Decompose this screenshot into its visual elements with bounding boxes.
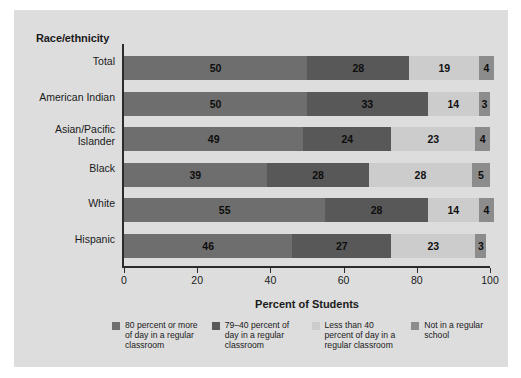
bar-segment: 4 (475, 127, 490, 151)
bar-row: Hispanic4627233 (124, 234, 490, 258)
bar-segment: 23 (391, 127, 475, 151)
bar-segment-value: 55 (124, 198, 325, 222)
bar-segment: 50 (124, 56, 307, 80)
bar-segment: 50 (124, 92, 307, 116)
bar-segment-value: 28 (267, 163, 369, 187)
category-label: White (0, 198, 115, 210)
legend-item[interactable]: 80 percent or more of day in a regular c… (112, 320, 203, 351)
stacked-bar: 4627233 (124, 234, 490, 258)
legend-swatch-not-regular-school (411, 322, 419, 330)
bar-row: White5528144 (124, 198, 490, 222)
x-axis-tick-label: 60 (338, 274, 350, 286)
bar-segment: 28 (307, 56, 409, 80)
x-axis-tick-label: 100 (481, 274, 499, 286)
bar-segment-value: 4 (475, 127, 490, 151)
x-axis-line (122, 266, 490, 268)
legend-item-label: Less than 40 percent of day in a regular… (325, 320, 403, 351)
x-axis-tick-mark (490, 268, 491, 273)
category-label: Black (0, 163, 115, 175)
category-label: Hispanic (0, 234, 115, 246)
legend-swatch-79-40 (212, 322, 220, 330)
bar-segment: 49 (124, 127, 303, 151)
x-axis-tick-mark (124, 268, 125, 273)
bar-segment-value: 3 (479, 92, 490, 116)
bar-segment: 19 (409, 56, 479, 80)
category-label: Total (0, 56, 115, 68)
bar-segment: 39 (124, 163, 267, 187)
bar-segment-value: 49 (124, 127, 303, 151)
stacked-bar: 5528144 (124, 198, 490, 222)
bar-segment-value: 39 (124, 163, 267, 187)
bar-segment-value: 3 (475, 234, 486, 258)
plot-area: Total5028194American Indian5033143Asian/… (124, 48, 490, 266)
bar-segment: 14 (428, 198, 479, 222)
x-axis-tick-mark (270, 268, 271, 273)
y-axis-header: Race/ethnicity (36, 32, 140, 44)
bar-segment-value: 50 (124, 92, 307, 116)
bar-segment: 3 (479, 92, 490, 116)
legend-item[interactable]: Not in a regular school (411, 320, 502, 340)
bar-segment: 27 (292, 234, 391, 258)
bar-segment-value: 24 (303, 127, 391, 151)
x-axis-tick-label: 40 (265, 274, 277, 286)
x-axis-tick-label: 0 (121, 274, 127, 286)
bar-row: Total5028194 (124, 56, 490, 80)
stacked-bar: 4924234 (124, 127, 490, 151)
bar-segment: 28 (369, 163, 471, 187)
stacked-bar: 5033143 (124, 92, 490, 116)
bar-segment-value: 5 (472, 163, 490, 187)
bar-row: Black3928285 (124, 163, 490, 187)
x-axis-title: Percent of Students (124, 298, 490, 310)
bar-segment: 55 (124, 198, 325, 222)
bar-segment: 24 (303, 127, 391, 151)
x-axis-tick-mark (197, 268, 198, 273)
bar-segment-value: 14 (428, 198, 479, 222)
bar-segment: 46 (124, 234, 292, 258)
bar-segment-value: 14 (428, 92, 479, 116)
bar-segment: 28 (267, 163, 369, 187)
legend-item-label: Not in a regular school (424, 320, 502, 340)
bar-segment-value: 23 (391, 127, 475, 151)
chart-figure-panel: Race/ethnicity Total5028194American Indi… (14, 10, 508, 367)
legend-swatch-80-or-more (112, 322, 120, 330)
bar-segment-value: 4 (479, 56, 494, 80)
bar-segment: 3 (475, 234, 486, 258)
bar-segment-value: 28 (307, 56, 409, 80)
bar-row: Asian/Pacific Islander4924234 (124, 127, 490, 151)
bar-segment: 5 (472, 163, 490, 187)
x-axis-tick-label: 80 (411, 274, 423, 286)
bar-segment: 14 (428, 92, 479, 116)
bar-segment-value: 23 (391, 234, 475, 258)
bar-segment: 33 (307, 92, 428, 116)
stacked-bar: 3928285 (124, 163, 490, 187)
x-axis-tick-label: 20 (191, 274, 203, 286)
bar-segment: 28 (325, 198, 427, 222)
bar-segment-value: 28 (369, 163, 471, 187)
chart-legend: 80 percent or more of day in a regular c… (112, 320, 502, 351)
legend-item-label: 79–40 percent of day in a regular classr… (225, 320, 303, 351)
x-axis-tick-mark (344, 268, 345, 273)
legend-swatch-less-than-40 (312, 322, 320, 330)
legend-item[interactable]: Less than 40 percent of day in a regular… (312, 320, 403, 351)
bar-segment-value: 27 (292, 234, 391, 258)
legend-item-label: 80 percent or more of day in a regular c… (125, 320, 203, 351)
category-label: American Indian (0, 92, 115, 104)
bar-segment: 4 (479, 56, 494, 80)
legend-item[interactable]: 79–40 percent of day in a regular classr… (212, 320, 303, 351)
bar-segment-value: 19 (409, 56, 479, 80)
bar-segment-value: 33 (307, 92, 428, 116)
stacked-bar: 5028194 (124, 56, 490, 80)
bar-segment: 4 (479, 198, 494, 222)
bar-segment: 23 (391, 234, 475, 258)
x-axis-tick-mark (417, 268, 418, 273)
bar-segment-value: 28 (325, 198, 427, 222)
bar-row: American Indian5033143 (124, 92, 490, 116)
bar-segment-value: 50 (124, 56, 307, 80)
bar-segment-value: 46 (124, 234, 292, 258)
bar-segment-value: 4 (479, 198, 494, 222)
category-label: Asian/Pacific Islander (0, 124, 115, 147)
